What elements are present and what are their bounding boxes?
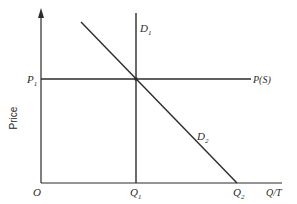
supply-demand-diagram: Price P1 P(S) D1 D2 O Q1 Q2 Q/T xyxy=(0,0,297,204)
y-axis xyxy=(38,8,44,183)
x-axis-label: Q/T xyxy=(266,187,283,198)
equilibrium-point xyxy=(134,77,138,81)
y-axis-label: Price xyxy=(8,106,19,129)
price-level-label: P1 xyxy=(26,73,37,88)
quantity-tick-q1: Q1 xyxy=(130,186,141,201)
supply-curve-label: P(S) xyxy=(252,74,271,86)
demand-curve-d1-label: D1 xyxy=(139,22,151,37)
y-axis-arrow-icon xyxy=(38,8,44,18)
demand-curve-d2 xyxy=(81,22,237,183)
origin-label: O xyxy=(33,186,41,198)
quantity-tick-q2: Q2 xyxy=(233,186,245,201)
